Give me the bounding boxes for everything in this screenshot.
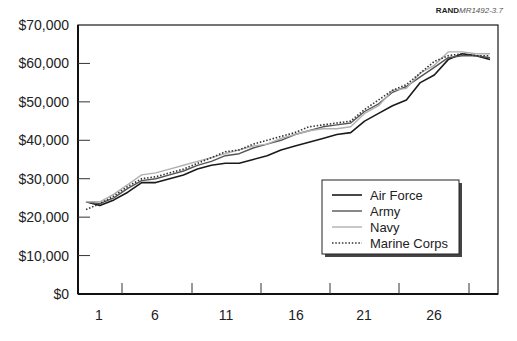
- y-tick-label: $60,000: [18, 55, 69, 71]
- y-tick-label: $70,000: [18, 17, 69, 33]
- y-axis: $0$10,000$20,000$30,000$40,000$50,000$60…: [18, 17, 90, 302]
- legend-label: Army: [370, 204, 401, 219]
- x-tick-label: 6: [151, 307, 159, 323]
- x-tick-label: 11: [219, 307, 234, 323]
- x-tick-label: 1: [95, 307, 103, 323]
- legend-label: Air Force: [370, 188, 423, 203]
- y-tick-label: $40,000: [18, 132, 69, 148]
- y-tick-label: $50,000: [18, 94, 69, 110]
- y-tick-label: $30,000: [18, 171, 69, 187]
- y-tick-label: $20,000: [18, 209, 69, 225]
- legend-label: Marine Corps: [370, 236, 449, 251]
- y-tick-label: $10,000: [18, 248, 69, 264]
- y-tick-label: $0: [53, 286, 69, 302]
- line-chart: $0$10,000$20,000$30,000$40,000$50,000$60…: [0, 0, 517, 341]
- legend-label: Navy: [370, 220, 400, 235]
- x-axis: 1611162126: [95, 283, 469, 323]
- x-tick-label: 26: [426, 307, 442, 323]
- x-tick-label: 21: [356, 307, 372, 323]
- x-tick-label: 16: [288, 307, 304, 323]
- legend: Air ForceArmyNavyMarine Corps: [322, 180, 462, 257]
